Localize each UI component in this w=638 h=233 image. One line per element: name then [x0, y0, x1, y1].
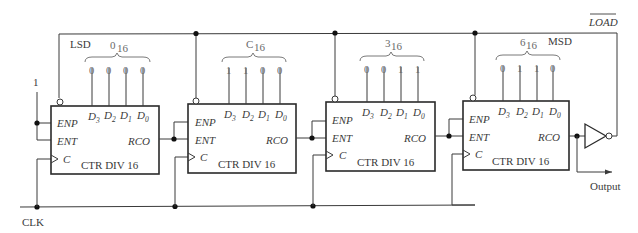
counter-3: 0 0 1 1 3 16 D3 D2 D1 D0 ENP ENT RCO C C… — [326, 37, 435, 171]
svg-text:16: 16 — [254, 41, 266, 53]
svg-text:2: 2 — [524, 111, 528, 120]
svg-text:0: 0 — [550, 63, 555, 74]
svg-text:D: D — [87, 110, 96, 122]
svg-text:0: 0 — [277, 65, 282, 76]
svg-text:ENP: ENP — [56, 117, 78, 129]
svg-text:ENT: ENT — [56, 135, 78, 147]
svg-text:D: D — [548, 105, 557, 117]
svg-text:1: 1 — [266, 114, 270, 123]
svg-text:0: 0 — [145, 115, 149, 124]
svg-text:D: D — [119, 109, 128, 121]
clk-label: CLK — [22, 216, 44, 228]
counter-circuit-diagram: LOAD CLK 1 0 0 0 0 0 16 LS — [0, 0, 638, 233]
svg-text:ENT: ENT — [194, 134, 216, 146]
svg-text:1: 1 — [243, 65, 248, 76]
svg-text:D: D — [257, 108, 266, 120]
svg-text:ENP: ENP — [468, 113, 490, 125]
svg-text:0: 0 — [500, 63, 505, 74]
svg-text:C: C — [246, 38, 253, 50]
svg-text:1: 1 — [404, 112, 408, 121]
svg-text:D: D — [361, 106, 370, 118]
svg-text:D: D — [531, 105, 540, 117]
svg-text:0: 0 — [283, 114, 287, 123]
load-junction-dot — [332, 30, 337, 35]
counter-4-name: CTR DIV 16 — [492, 155, 550, 167]
svg-text:D: D — [412, 106, 421, 118]
svg-text:D: D — [223, 108, 232, 120]
svg-text:16: 16 — [391, 40, 403, 52]
svg-text:D: D — [241, 108, 250, 120]
svg-text:1: 1 — [128, 115, 132, 124]
enable-input: 1 — [33, 76, 51, 140]
svg-text:2: 2 — [112, 115, 116, 124]
counter-3-name: CTR DIV 16 — [357, 156, 415, 168]
svg-text:16: 16 — [526, 39, 538, 51]
svg-text:D: D — [379, 106, 388, 118]
svg-text:ENP: ENP — [331, 114, 353, 126]
svg-text:D: D — [395, 106, 404, 118]
counter-2-name: CTR DIV 16 — [218, 158, 276, 170]
svg-text:3: 3 — [369, 112, 374, 121]
svg-text:0: 0 — [381, 64, 386, 75]
output-label: Output — [590, 180, 621, 192]
rco-link-2-3 — [296, 121, 326, 141]
svg-text:RCO: RCO — [265, 134, 288, 146]
counter-2: 1 1 0 0 C 16 D3 D2 D1 D0 ENP ENT RCO C C… — [188, 38, 296, 173]
svg-text:0: 0 — [89, 65, 94, 76]
svg-text:0: 0 — [123, 65, 128, 76]
svg-text:1: 1 — [534, 63, 539, 74]
svg-text:0: 0 — [260, 65, 265, 76]
counter-4: 0 1 1 0 6 16 MSD D3 D2 D1 D0 ENP ENT RCO… — [463, 35, 572, 170]
output-arrow-icon — [605, 170, 612, 175]
counter-1: 0 0 0 0 0 16 LSD D3 D2 D1 D0 ENP ENT RCO… — [51, 38, 159, 174]
load-junction-dot — [193, 31, 198, 36]
lsd-label: LSD — [70, 38, 91, 50]
svg-text:LOAD: LOAD — [588, 16, 618, 28]
svg-text:1: 1 — [33, 76, 39, 88]
svg-text:C: C — [200, 151, 208, 163]
rco-link-3-4 — [435, 119, 463, 139]
svg-text:0: 0 — [110, 39, 116, 51]
counter-1-name: CTR DIV 16 — [81, 159, 139, 171]
svg-text:RCO: RCO — [537, 131, 560, 143]
svg-text:RCO: RCO — [403, 132, 426, 144]
load-junction-dot — [472, 30, 477, 35]
svg-text:ENT: ENT — [331, 132, 353, 144]
svg-text:RCO: RCO — [127, 135, 150, 147]
svg-text:1: 1 — [226, 65, 231, 76]
svg-text:0: 0 — [557, 111, 561, 120]
inverter-gate-icon — [585, 124, 606, 148]
svg-text:16: 16 — [117, 42, 129, 54]
svg-text:C: C — [475, 148, 483, 160]
svg-text:3: 3 — [95, 116, 100, 125]
svg-text:0: 0 — [364, 64, 369, 75]
svg-text:ENT: ENT — [468, 131, 490, 143]
output-section: Output — [569, 124, 621, 192]
svg-text:1: 1 — [540, 111, 544, 120]
svg-text:3: 3 — [231, 114, 236, 123]
svg-text:D: D — [136, 109, 145, 121]
svg-text:ENP: ENP — [194, 116, 216, 128]
svg-text:1: 1 — [415, 64, 420, 75]
svg-text:1: 1 — [398, 64, 403, 75]
svg-text:D: D — [103, 109, 112, 121]
svg-text:C: C — [339, 149, 347, 161]
rco-link-1-2 — [159, 122, 188, 142]
svg-text:0: 0 — [421, 112, 425, 121]
svg-text:C: C — [63, 153, 71, 165]
svg-text:1: 1 — [517, 63, 522, 74]
svg-text:3: 3 — [505, 111, 510, 120]
svg-text:D: D — [497, 105, 506, 117]
svg-text:0: 0 — [140, 65, 145, 76]
svg-text:D: D — [274, 108, 283, 120]
msd-label: MSD — [548, 35, 572, 47]
svg-text:2: 2 — [388, 112, 392, 121]
svg-text:0: 0 — [106, 65, 111, 76]
svg-text:2: 2 — [250, 114, 254, 123]
load-label: LOAD — [588, 14, 618, 28]
svg-text:D: D — [515, 105, 524, 117]
